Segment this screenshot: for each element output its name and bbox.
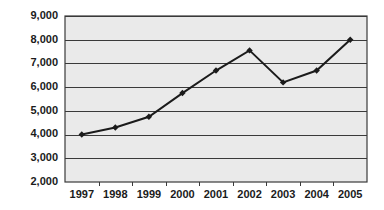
y-axis-tick-label: 4,000: [30, 127, 58, 139]
y-axis-tick-label: 3,000: [30, 151, 58, 163]
x-axis-tick-label: 2003: [271, 188, 295, 200]
x-axis-tick-label: 2002: [237, 188, 261, 200]
line-chart: 2,0003,0004,0005,0006,0007,0008,0009,000…: [0, 0, 384, 210]
x-axis-labels: 199719981999200020012002200320042005: [70, 188, 363, 200]
y-axis-tick-label: 8,000: [30, 33, 58, 45]
x-axis-tick-label: 2005: [338, 188, 362, 200]
y-axis-tick-label: 6,000: [30, 80, 58, 92]
y-axis-tick-label: 9,000: [30, 9, 58, 21]
x-axis-tick-label: 1999: [137, 188, 161, 200]
x-axis-tick-label: 2004: [304, 188, 329, 200]
x-axis-tick-label: 2000: [170, 188, 194, 200]
x-axis-tick-label: 1998: [103, 188, 127, 200]
y-axis-tick-label: 7,000: [30, 56, 58, 68]
chart-canvas: 2,0003,0004,0005,0006,0007,0008,0009,000…: [0, 0, 384, 210]
x-axis-tick-label: 1997: [70, 188, 94, 200]
x-axis-tick-label: 2001: [204, 188, 228, 200]
y-axis-tick-label: 2,000: [30, 175, 58, 187]
y-axis-tick-label: 5,000: [30, 104, 58, 116]
